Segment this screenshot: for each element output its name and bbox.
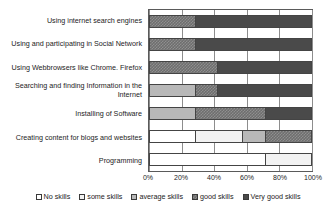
stacked-bar [149, 61, 312, 74]
legend-label: some skills [87, 192, 122, 201]
legend-label: good skills [200, 192, 234, 201]
legend-swatch-icon [79, 194, 85, 200]
legend-label: No skills [44, 192, 71, 201]
bar-segment-verygood [217, 84, 312, 97]
legend-item-good[interactable]: good skills [192, 192, 234, 201]
y-axis-label: Using and participating in Social Networ… [0, 32, 146, 55]
stacked-bar-chart: Using internet search enginesUsing and p… [0, 0, 336, 218]
bar-row [149, 56, 312, 79]
x-axis-tick: 100% [304, 174, 322, 181]
x-axis-tick: 60% [240, 174, 254, 181]
bar-segment-average [242, 130, 265, 143]
x-axis-tick-labels: 0%20%40%60%80%100% [148, 174, 313, 186]
bar-segment-average [149, 84, 195, 97]
bar-segment-average [149, 107, 195, 120]
bar-segment-verygood [195, 38, 312, 51]
stacked-bar [149, 38, 312, 51]
bar-row [149, 10, 312, 33]
y-axis-label: Searching and finding Information in the… [0, 79, 146, 102]
y-axis-label: Using Webbrowsers like Chrome. Firefox [0, 56, 146, 79]
bar-segment-good [265, 130, 312, 143]
bar-segment-verygood [265, 107, 312, 120]
legend-swatch-icon [243, 194, 249, 200]
bar-row [149, 125, 312, 148]
bars-container [149, 10, 312, 171]
bar-segment-verygood [195, 15, 312, 28]
legend-swatch-icon [192, 194, 198, 200]
bar-segment-good [149, 15, 195, 28]
legend-item-verygood[interactable]: Very good skills [243, 192, 301, 201]
stacked-bar [149, 107, 312, 120]
legend-item-average[interactable]: average skills [131, 192, 183, 201]
y-axis-label: Installing of Software [0, 102, 146, 125]
bar-row [149, 79, 312, 102]
stacked-bar [149, 15, 312, 28]
stacked-bar [149, 153, 312, 166]
stacked-bar [149, 84, 312, 97]
bar-segment-good [195, 107, 265, 120]
bar-segment-verygood [217, 61, 312, 74]
x-axis-tick: 40% [207, 174, 221, 181]
bar-segment-some [265, 153, 312, 166]
legend-label: average skills [139, 192, 183, 201]
bar-segment-good [149, 61, 217, 74]
y-axis-category-labels: Using internet search enginesUsing and p… [0, 9, 146, 172]
legend-label: Very good skills [251, 192, 301, 201]
y-axis-label: Programming [0, 149, 146, 172]
legend-item-some[interactable]: some skills [79, 192, 122, 201]
bar-row [149, 102, 312, 125]
bar-segment-none [149, 130, 195, 143]
y-axis-label: Creating content for blogs and websites [0, 125, 146, 148]
stacked-bar [149, 130, 312, 143]
bar-segment-some [195, 130, 242, 143]
bar-row [149, 33, 312, 56]
bar-segment-good [195, 84, 218, 97]
x-axis-tick: 80% [273, 174, 287, 181]
gridline [312, 10, 313, 171]
bar-row [149, 148, 312, 171]
x-axis-tick: 0% [143, 174, 153, 181]
plot-area [148, 9, 313, 172]
legend-item-none[interactable]: No skills [36, 192, 71, 201]
bar-segment-good [149, 38, 195, 51]
bar-segment-none [149, 153, 265, 166]
chart-legend: No skillssome skillsaverage skillsgood s… [0, 192, 336, 201]
x-axis-tick: 20% [174, 174, 188, 181]
legend-swatch-icon [131, 194, 137, 200]
legend-swatch-icon [36, 194, 42, 200]
y-axis-label: Using internet search engines [0, 9, 146, 32]
